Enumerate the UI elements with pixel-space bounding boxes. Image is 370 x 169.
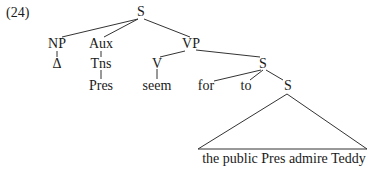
node-s-bar: S bbox=[259, 57, 267, 71]
node-tns: Tns bbox=[91, 57, 112, 71]
node-v: V bbox=[152, 57, 162, 71]
node-vp: VP bbox=[182, 37, 200, 51]
node-root-s: S bbox=[137, 5, 145, 19]
node-aux: Aux bbox=[89, 37, 113, 51]
node-pres: Pres bbox=[89, 79, 113, 93]
node-seem: seem bbox=[143, 79, 172, 93]
node-to: to bbox=[241, 79, 252, 93]
node-s-inner: S bbox=[284, 79, 292, 93]
triangle-leaf-text: the public Pres admire Teddy bbox=[202, 152, 366, 166]
syntax-tree-diagram: (24) S NP Δ Aux Tns Pres VP V seem S for… bbox=[0, 0, 370, 169]
example-number: (24) bbox=[6, 6, 29, 20]
node-for: for bbox=[198, 79, 214, 93]
tree-branches bbox=[0, 0, 370, 169]
node-np: NP bbox=[48, 37, 66, 51]
node-delta: Δ bbox=[52, 57, 61, 71]
